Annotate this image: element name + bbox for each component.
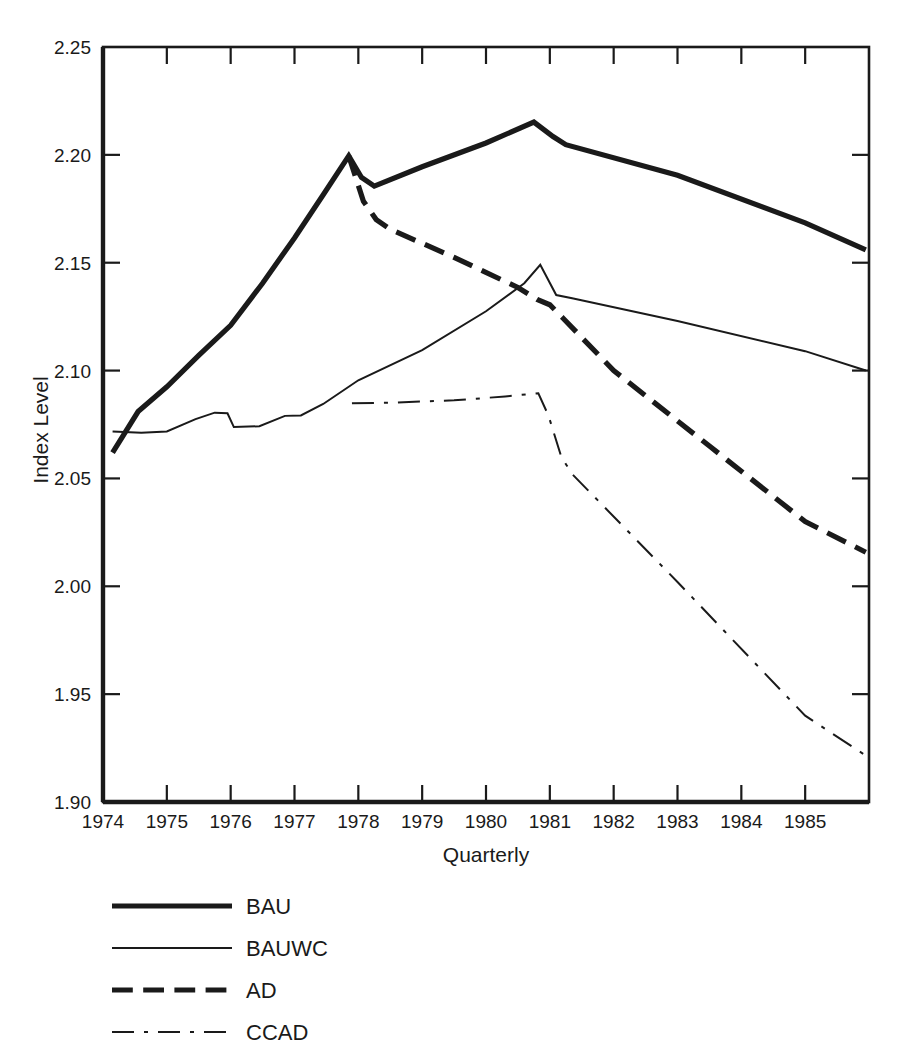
x-tick-label: 1979	[401, 811, 443, 832]
legend-label-bauwc: BAUWC	[246, 936, 328, 961]
y-axis-tickmarks	[103, 155, 869, 694]
chart-legend: BAUBAUWCADCCAD	[112, 894, 328, 1045]
y-tick-label: 2.05	[54, 468, 91, 489]
data-series-group	[113, 122, 866, 756]
y-tick-label: 2.15	[54, 253, 91, 274]
legend-label-bau: BAU	[246, 894, 291, 919]
x-axis-title: Quarterly	[443, 843, 530, 866]
x-tick-label: 1980	[465, 811, 507, 832]
y-tick-label: 2.00	[54, 576, 91, 597]
axis-frame	[103, 47, 869, 802]
x-tick-label: 1978	[337, 811, 379, 832]
x-tick-label: 1976	[210, 811, 252, 832]
x-axis-tickmarks	[103, 47, 805, 802]
line-chart-svg: 1974197519761977197819791980198119821983…	[0, 0, 910, 1058]
x-tick-label: 1977	[273, 811, 315, 832]
legend-label-ad: AD	[246, 978, 277, 1003]
x-tick-label: 1974	[82, 811, 125, 832]
y-tick-label: 2.20	[54, 145, 91, 166]
series-line-bauwc	[113, 265, 866, 433]
x-tick-label: 1985	[784, 811, 826, 832]
y-tick-label: 1.90	[54, 792, 91, 813]
y-tick-label: 1.95	[54, 684, 91, 705]
x-tick-label: 1975	[146, 811, 188, 832]
y-axis-tick-labels: 2.252.202.152.102.052.001.951.90	[54, 37, 91, 813]
series-line-ccad	[352, 393, 866, 755]
plot-border	[103, 47, 869, 802]
y-axis-title: Index Level	[29, 376, 52, 483]
x-tick-label: 1982	[593, 811, 635, 832]
chart-figure: 1974197519761977197819791980198119821983…	[0, 0, 910, 1058]
x-axis-tick-labels: 1974197519761977197819791980198119821983…	[82, 811, 826, 832]
x-tick-label: 1983	[656, 811, 698, 832]
x-tick-label: 1984	[720, 811, 763, 832]
series-line-bau	[113, 122, 866, 452]
y-tick-label: 2.25	[54, 37, 91, 58]
legend-label-ccad: CCAD	[246, 1020, 308, 1045]
y-tick-label: 2.10	[54, 361, 91, 382]
x-tick-label: 1981	[529, 811, 571, 832]
